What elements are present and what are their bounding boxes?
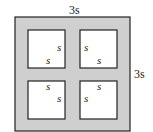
tl-label-side: s <box>57 41 61 53</box>
tl-label-bottom: s <box>46 54 50 66</box>
diagram: 3s 3s s s s s s s s s <box>0 0 153 132</box>
bl-label-top: s <box>46 80 50 92</box>
tr-label-side: s <box>84 41 88 53</box>
br-label-top: s <box>97 80 101 92</box>
br-label-side: s <box>84 92 88 104</box>
bl-label-side: s <box>57 92 61 104</box>
tr-label-bottom: s <box>97 54 101 66</box>
top-dimension-label: 3s <box>69 3 80 17</box>
right-dimension-label: 3s <box>134 67 145 81</box>
